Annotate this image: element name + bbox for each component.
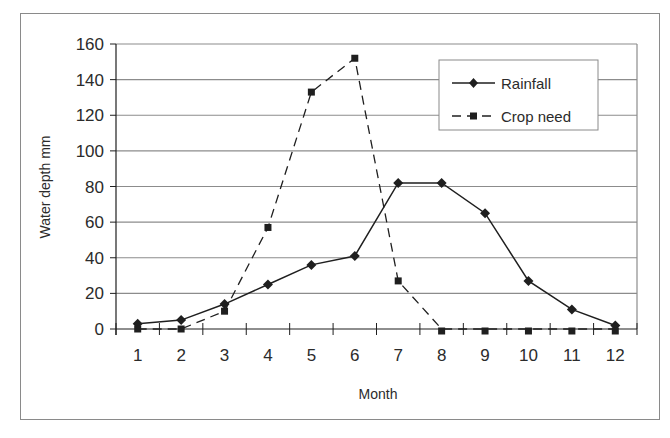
y-axis-tick-labels: 020406080100120140160 [76, 35, 104, 339]
crop-need-marker [178, 326, 185, 333]
y-tick-label: 40 [85, 249, 104, 268]
x-tick-label: 12 [606, 346, 625, 365]
crop-need-marker [134, 326, 141, 333]
y-tick-label: 160 [76, 35, 104, 54]
rainfall-marker [523, 276, 533, 286]
y-tick-label: 80 [85, 178, 104, 197]
x-tick-label: 7 [393, 346, 402, 365]
x-tick-label: 11 [563, 346, 581, 365]
y-axis-title: Water depth mm [37, 136, 53, 239]
x-tick-label: 2 [176, 346, 185, 365]
y-tick-label: 140 [76, 71, 104, 90]
crop-need-marker [482, 328, 489, 335]
y-tick-label: 60 [85, 213, 104, 232]
x-tick-label: 3 [220, 346, 229, 365]
line-chart: 020406080100120140160 123456789101112 Wa… [0, 0, 670, 438]
rainfall-marker [176, 315, 186, 325]
x-tick-label: 6 [350, 346, 359, 365]
crop-need-marker [264, 224, 271, 231]
x-tick-label: 10 [519, 346, 538, 365]
rainfall-marker [350, 251, 360, 261]
crop-need-marker [221, 308, 228, 315]
square-marker-icon [470, 113, 477, 120]
x-axis-tick-labels: 123456789101112 [133, 346, 625, 365]
crop-need-marker [351, 55, 358, 62]
rainfall-marker [263, 279, 273, 289]
rainfall-line [138, 183, 616, 326]
crop-need-marker [568, 328, 575, 335]
x-tick-label: 4 [263, 346, 272, 365]
y-tick-label: 120 [76, 106, 104, 125]
crop-need-marker [612, 328, 619, 335]
crop-need-marker [525, 328, 532, 335]
rainfall-marker [567, 304, 577, 314]
x-tick-label: 9 [480, 346, 489, 365]
x-tick-label: 1 [133, 346, 142, 365]
crop-need-marker [308, 89, 315, 96]
crop-need-marker [438, 328, 445, 335]
x-tick-label: 8 [437, 346, 446, 365]
x-tick-label: 5 [307, 346, 316, 365]
y-tick-label: 20 [85, 284, 104, 303]
legend: Rainfall Crop need [439, 60, 598, 130]
x-axis-title: Month [359, 386, 398, 402]
rainfall-marker [306, 260, 316, 270]
rainfall-marker [480, 208, 490, 218]
legend-label-rainfall: Rainfall [501, 75, 551, 92]
crop-need-marker [395, 277, 402, 284]
y-tick-label: 100 [76, 142, 104, 161]
legend-label-crop-need: Crop need [501, 108, 571, 125]
y-tick-label: 0 [95, 320, 104, 339]
